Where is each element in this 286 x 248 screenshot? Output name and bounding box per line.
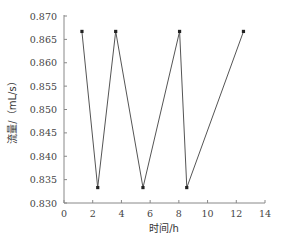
y-tick-label: 0.855 — [30, 81, 57, 92]
series-line — [82, 31, 244, 187]
y-axis-ticks: 0.8300.8350.8400.8450.8500.8550.8600.865… — [30, 11, 67, 209]
axes — [64, 15, 265, 203]
y-tick-label: 0.845 — [30, 127, 57, 138]
data-point-marker — [96, 186, 99, 189]
data-point-marker — [242, 30, 245, 33]
data-point-marker — [141, 186, 144, 189]
x-tick-label: 6 — [147, 208, 153, 219]
flow-rate-line-chart: 0.8300.8350.8400.8450.8500.8550.8600.865… — [0, 0, 286, 248]
data-point-marker — [178, 30, 181, 33]
plot-series — [80, 30, 245, 189]
x-tick-label: 4 — [118, 208, 124, 219]
y-tick-label: 0.835 — [30, 174, 57, 185]
data-point-marker — [185, 186, 188, 189]
data-point-marker — [80, 30, 83, 33]
x-tick-label: 8 — [176, 208, 182, 219]
x-axis-title: 时间/h — [149, 222, 179, 234]
x-tick-label: 2 — [90, 208, 96, 219]
y-tick-label: 0.865 — [30, 34, 57, 45]
x-tick-label: 10 — [202, 208, 214, 219]
y-axis-title: 流量/（mL/s） — [6, 76, 18, 143]
x-tick-label: 0 — [61, 208, 67, 219]
y-tick-label: 0.860 — [30, 57, 57, 68]
x-tick-label: 12 — [230, 208, 242, 219]
y-tick-label: 0.840 — [30, 151, 57, 162]
x-tick-label: 14 — [259, 208, 271, 219]
data-point-marker — [114, 30, 117, 33]
y-tick-label: 0.850 — [30, 104, 57, 115]
y-tick-label: 0.830 — [30, 198, 57, 209]
y-tick-label: 0.870 — [30, 11, 57, 22]
